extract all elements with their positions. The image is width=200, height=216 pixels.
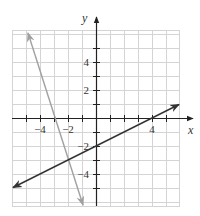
- y-tick-label-neg4: −4: [77, 168, 89, 180]
- x-tick-label-neg4: −4: [34, 123, 46, 135]
- x-tick-label-4: 4: [149, 123, 155, 135]
- x-axis-label: x: [187, 123, 194, 137]
- y-tick-label-4: 4: [84, 56, 90, 68]
- x-tick-label-neg2: −2: [62, 123, 74, 135]
- coordinate-plane: −4 −2 4 4 2 −2 −4 x y: [0, 0, 200, 216]
- y-axis-label: y: [81, 11, 88, 25]
- y-tick-label-2: 2: [84, 84, 90, 96]
